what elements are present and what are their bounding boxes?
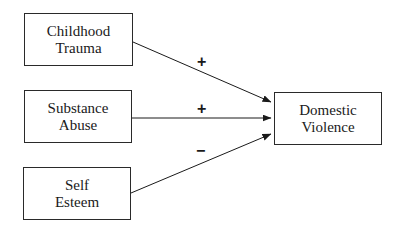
node-label-line: Self: [65, 177, 89, 194]
edge-sign-positive: +: [197, 54, 206, 70]
node-label-line: Substance: [48, 100, 109, 117]
node-label-line: Trauma: [55, 40, 101, 57]
edge-childhood-trauma-to-domestic-violence: [133, 42, 271, 102]
node-substance-abuse: Substance Abuse: [24, 90, 132, 143]
node-label-line: Esteem: [55, 194, 99, 211]
node-label-line: Abuse: [59, 117, 97, 134]
node-label-line: Childhood: [47, 23, 110, 40]
node-label-line: Domestic: [299, 102, 357, 119]
node-domestic-violence: Domestic Violence: [274, 92, 382, 145]
edge-sign-positive: +: [197, 101, 206, 117]
node-label-line: Violence: [301, 119, 354, 136]
node-childhood-trauma: Childhood Trauma: [24, 13, 133, 66]
edge-sign-negative: −: [196, 143, 205, 159]
node-self-esteem: Self Esteem: [23, 167, 131, 220]
